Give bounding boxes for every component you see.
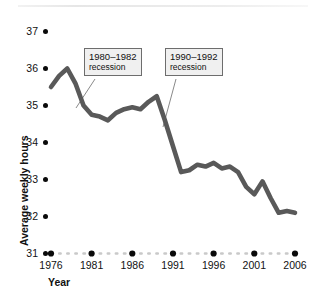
annotation-recession-1980: 1980–1982 recession (84, 48, 142, 76)
annotation-1990-line2: recession (170, 62, 218, 72)
x-tick-label-1981: 1981 (72, 259, 112, 271)
baseline-major-dot-1981 (89, 250, 95, 256)
x-axis-title: Year (48, 276, 70, 288)
x-tick-label-2001: 2001 (234, 259, 274, 271)
baseline-major-dot-1976 (48, 250, 54, 256)
annotation-recession-1990: 1990–1992 recession (165, 48, 223, 76)
baseline-major-dot-1986 (129, 250, 135, 256)
annotation-1980-line2: recession (89, 62, 137, 72)
annotation-1990-line1: 1990–1992 (170, 51, 218, 62)
y-axis-title: Average weekly hours (18, 136, 30, 247)
plot-area (0, 0, 313, 301)
chart-container: 37 36 35 34 33 32 31 (0, 0, 313, 301)
annotation-1980-line1: 1980–1982 (89, 51, 137, 62)
baseline-major-dot-1991 (170, 250, 176, 256)
baseline-major-dot-2006 (292, 250, 298, 256)
baseline-major-dot-2001 (251, 250, 257, 256)
x-tick-label-1986: 1986 (112, 259, 152, 271)
x-tick-label-1991: 1991 (153, 259, 193, 271)
x-tick-label-1996: 1996 (194, 259, 234, 271)
baseline-major-dot-1996 (211, 250, 217, 256)
x-axis-baseline (48, 250, 298, 256)
x-tick-label-1976: 1976 (31, 259, 71, 271)
x-tick-label-2006: 2006 (275, 259, 313, 271)
